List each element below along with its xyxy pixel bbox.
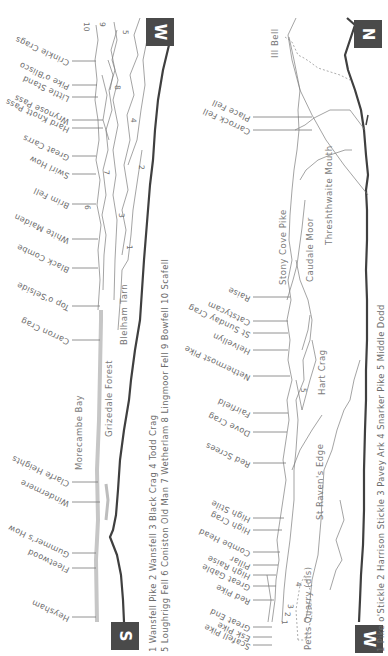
svg-text:Red Screes: Red Screes [204,441,252,471]
badge-n: N [354,20,382,48]
ridge-numbers: 1 2 3 4 5 6 7 8 9 10 [82,22,146,250]
svg-text:2: 2 [137,165,146,170]
area-morecambe-bay: Morecambe Bay [74,395,84,470]
svg-text:8: 8 [113,85,122,90]
peak-labels-1: Heysham Fleetwood Gummer's How Windermer… [4,34,103,624]
svg-text:2: 2 [283,612,292,617]
svg-text:W: W [151,24,169,41]
area-stony-cove-pike: Stony Cove Pike [278,209,288,285]
svg-text:3: 3 [286,604,295,609]
svg-text:Heysham: Heysham [30,598,71,624]
badge-s: S [111,622,139,650]
ground-line-2 [345,18,368,622]
ridge-lines-2 [267,18,368,622]
key-line-1: 1 Wansfell Pike 2 Wansfell 3 Black Crag … [148,415,158,652]
svg-text:White Maiden: White Maiden [12,212,70,246]
svg-text:Brim Fell: Brim Fell [32,186,71,211]
panorama-west-north: 1 2 3 4 5 Petts Quarry (dis) St Raven's … [182,18,386,653]
badge-w-1: W [146,18,174,46]
svg-text:Clarfe Heights: Clarfe Heights [10,454,71,489]
area-hart-crag: Hart Crag [317,349,327,395]
svg-text:Raise: Raise [226,285,252,304]
area-blelham-tarn: Blelham Tarn [119,284,129,345]
svg-text:Black Combe: Black Combe [15,242,71,275]
area-petts-quarry: Petts Quarry (dis) [303,566,313,650]
area-threshthwaite-mouth: Threshthwaite Mouth [324,145,334,246]
svg-text:1: 1 [280,620,289,625]
key-line-3: 1 Pike o'Stickle 2 Harrison Stickle 3 Pa… [376,304,386,652]
svg-text:Great Carrs: Great Carrs [21,133,71,163]
svg-text:5: 5 [299,388,308,393]
svg-text:4: 4 [129,118,138,123]
svg-text:10: 10 [82,22,91,32]
boundary-dashed [285,37,350,80]
sea-band [96,310,101,622]
svg-text:1: 1 [125,245,134,250]
svg-text:9: 9 [98,22,107,27]
panorama-south-west: 1 2 3 4 5 6 7 8 9 10 Morecambe Bay Grize… [4,18,174,652]
area-grizedale-forest: Grizedale Forest [104,360,114,437]
area-ill-bell: Ill Bell [270,28,280,58]
svg-text:5: 5 [121,30,130,35]
svg-text:7: 7 [102,170,111,175]
area-caudale-moor: Caudale Moor [305,217,315,282]
svg-text:4: 4 [294,582,303,587]
panorama-diagram: 1 2 3 4 5 6 7 8 9 10 Morecambe Bay Grize… [0,0,388,656]
svg-text:3: 3 [117,213,126,218]
area-st-ravens-edge: St Raven's Edge [315,444,325,520]
svg-text:N: N [359,28,377,41]
svg-text:S: S [116,631,134,642]
key-line-2: 5 Loughrigg Fell 6 Coniston Old Man 7 We… [160,259,170,652]
svg-text:Top o'Selside: Top o'Selside [15,280,72,314]
svg-text:Carron Crag: Carron Crag [19,316,71,347]
svg-text:6: 6 [83,205,92,210]
